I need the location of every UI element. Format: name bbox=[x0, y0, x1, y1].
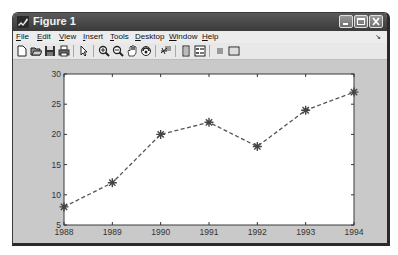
menu-desktop[interactable]: Desktop bbox=[135, 32, 164, 41]
rotate-3d-icon[interactable] bbox=[140, 45, 152, 57]
open-file-icon[interactable] bbox=[30, 45, 42, 57]
menu-tools[interactable]: Tools bbox=[110, 32, 129, 41]
zoom-out-icon[interactable] bbox=[112, 45, 124, 57]
data-cursor-icon[interactable] bbox=[160, 45, 172, 57]
pan-icon[interactable] bbox=[126, 45, 138, 57]
y-tick-label: 20 bbox=[52, 129, 62, 139]
legend-icon[interactable] bbox=[194, 45, 206, 57]
window-title: Figure 1 bbox=[33, 15, 76, 27]
menu-view[interactable]: View bbox=[59, 32, 76, 41]
dock-arrow-icon[interactable]: ↘ bbox=[375, 33, 381, 41]
maximize-icon bbox=[355, 16, 367, 27]
menu-bar: File Edit View Insert Tools Desktop Wind… bbox=[13, 31, 387, 43]
x-tick-label: 1991 bbox=[200, 227, 219, 237]
x-tick-label: 1989 bbox=[103, 227, 122, 237]
maximize-button[interactable] bbox=[354, 15, 368, 28]
y-tick-label: 15 bbox=[52, 160, 62, 170]
menu-insert[interactable]: Insert bbox=[83, 32, 103, 41]
menu-help[interactable]: Help bbox=[202, 32, 218, 41]
menu-file[interactable]: File bbox=[16, 32, 29, 41]
minimize-icon bbox=[340, 16, 352, 27]
toolbar-separator bbox=[209, 45, 210, 57]
menu-edit[interactable]: Edit bbox=[37, 32, 51, 41]
toolbar-separator bbox=[93, 45, 94, 57]
figure-window: Figure 1 File Edit View Insert Tools Des… bbox=[12, 12, 390, 246]
x-tick-label: 1993 bbox=[296, 227, 315, 237]
toolbar-separator bbox=[175, 45, 176, 57]
star-marker-icon[interactable] bbox=[205, 118, 214, 127]
y-tick-label: 25 bbox=[52, 99, 62, 109]
star-marker-icon[interactable] bbox=[156, 130, 165, 139]
star-marker-icon[interactable] bbox=[60, 202, 69, 211]
toolbar-separator bbox=[73, 45, 74, 57]
y-tick-label: 10 bbox=[52, 190, 62, 200]
toolbar-separator bbox=[155, 45, 156, 57]
zoom-in-icon[interactable] bbox=[98, 45, 110, 57]
figure-canvas: 198819891990199119921993199451015202530 bbox=[13, 60, 387, 243]
matlab-logo-icon bbox=[17, 16, 29, 28]
hide-plot-tools-icon[interactable] bbox=[214, 45, 226, 57]
save-icon[interactable] bbox=[44, 45, 56, 57]
new-figure-icon[interactable] bbox=[16, 45, 28, 57]
close-icon bbox=[370, 16, 382, 27]
print-icon[interactable] bbox=[58, 45, 70, 57]
colorbar-icon[interactable] bbox=[180, 45, 192, 57]
x-tick-label: 1992 bbox=[248, 227, 267, 237]
x-tick-label: 1990 bbox=[151, 227, 170, 237]
y-tick-label: 5 bbox=[56, 220, 61, 230]
minimize-button[interactable] bbox=[339, 15, 353, 28]
line-chart[interactable]: 198819891990199119921993199451015202530 bbox=[13, 60, 390, 246]
menu-window[interactable]: Window bbox=[169, 32, 197, 41]
toolbar bbox=[13, 43, 387, 60]
show-plot-tools-icon[interactable] bbox=[228, 45, 240, 57]
close-button[interactable] bbox=[369, 15, 383, 28]
axes-box bbox=[64, 74, 354, 225]
star-marker-icon[interactable] bbox=[108, 178, 117, 187]
x-tick-label: 1994 bbox=[345, 227, 364, 237]
title-bar[interactable]: Figure 1 bbox=[13, 13, 387, 31]
y-tick-label: 30 bbox=[52, 69, 62, 79]
edit-plot-icon[interactable] bbox=[78, 45, 90, 57]
star-marker-icon[interactable] bbox=[350, 88, 359, 97]
